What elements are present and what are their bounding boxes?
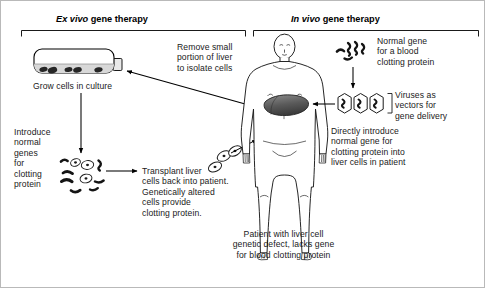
remove-liver-portion-label: Remove small portion of liver to isolate… [177,42,232,73]
viruses-vectors-label: Viruses as vectors for gene delivery [395,90,447,121]
directly-introduce-label: Directly introduce normal gene for clott… [331,126,406,168]
panel-title-ex-vivo-rest: gene therapy [88,14,148,24]
introduce-genes-label: Introduce normal genes for clotting prot… [14,127,51,189]
panel-title-in-vivo-rest: gene therapy [320,14,380,24]
normal-gene-label: Normal gene for a blood clotting protein [377,36,434,67]
panel-title-ex-vivo-italic: Ex vivo [56,14,88,24]
panel-title-ex-vivo: Ex vivo gene therapy [56,14,148,24]
virus-capsid-icon-group [338,94,392,114]
culture-flask-icon [34,49,122,75]
flask-caption: Grow cells in culture [33,81,112,91]
gene-strand-icon-normal-gene [337,42,364,59]
panel-bracket-ex-vivo [22,31,246,37]
patient-caption: Patient with liver cell genetic defect, … [216,229,351,260]
transplant-cells-label: Transplant liver cells back into patient… [142,166,229,218]
gene-therapy-diagram: Ex vivo gene therapy In vivo gene therap… [0,0,485,288]
panel-title-in-vivo-italic: In vivo [291,14,320,24]
arrow-remove-liver-portion [127,71,263,109]
liver-cell-icon-cluster-ex-vivo [61,158,104,193]
panel-title-in-vivo: In vivo gene therapy [291,14,380,24]
human-body-icon [241,34,328,260]
